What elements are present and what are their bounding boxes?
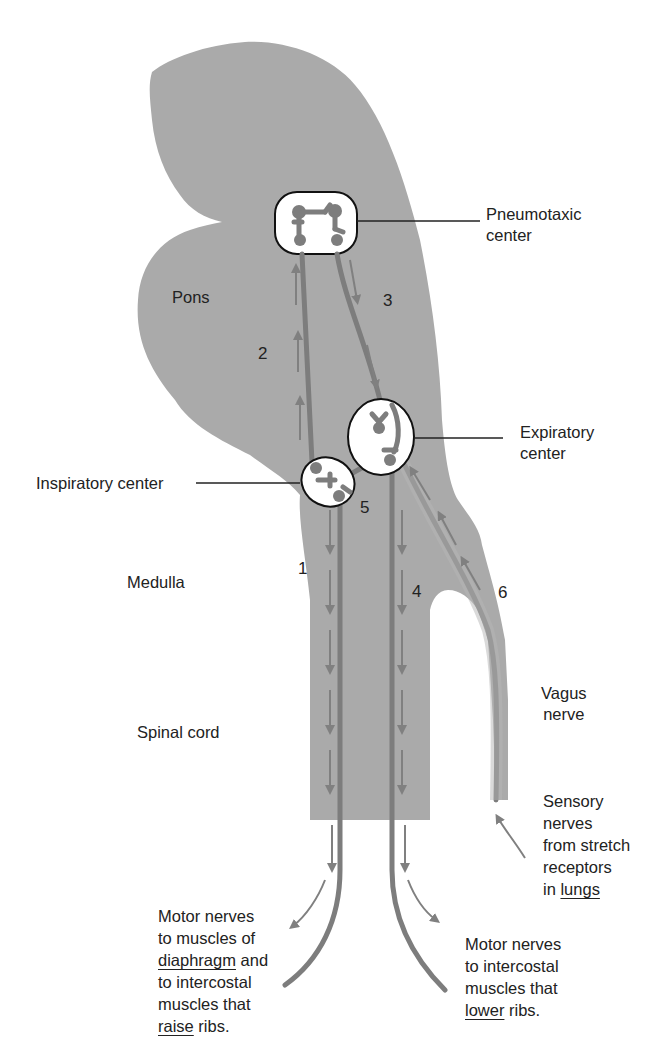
pathway-number-6: 6 [498, 583, 507, 603]
raise-term: raise [158, 1017, 194, 1035]
spinal-cord-label: Spinal cord [137, 722, 220, 743]
pathway-number-5: 5 [360, 498, 369, 518]
pneumotaxic-center-label: Pneumotaxic center [486, 204, 581, 246]
vagus-nerve-label: Vagus nerve [541, 683, 587, 725]
pathway-number-4: 4 [412, 582, 421, 602]
motor-nerves-intercostal-label: Motor nerves to intercostal muscles that… [465, 933, 561, 1021]
inspiratory-center-label: Inspiratory center [36, 473, 163, 494]
lungs-term: lungs [560, 880, 599, 898]
pons-label: Pons [172, 287, 210, 308]
lower-term: lower [465, 1001, 504, 1019]
medulla-label: Medulla [127, 572, 185, 593]
motor-nerves-diaphragm-label: Motor nerves to muscles of diaphragm and… [158, 905, 268, 1037]
pneumotaxic-center-shape [275, 192, 357, 254]
sensory-nerves-label: Sensory nerves from stretch receptors in… [543, 790, 630, 900]
pathway-number-2: 2 [258, 344, 267, 364]
expiratory-center-shape [348, 399, 414, 475]
brainstem-tissue [138, 42, 508, 820]
expiratory-center-label: Expiratory center [520, 422, 594, 464]
pathway-number-1: 1 [298, 559, 307, 579]
diaphragm-term: diaphragm [158, 951, 236, 969]
pathway-number-3: 3 [383, 291, 392, 311]
